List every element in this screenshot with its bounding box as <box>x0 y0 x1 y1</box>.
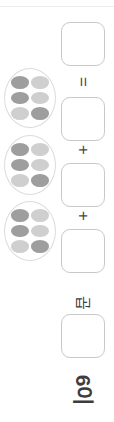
egg-icon <box>11 240 29 253</box>
answer-box-product[interactable] <box>61 314 105 358</box>
egg-icon <box>31 92 49 105</box>
egg-icon <box>31 76 49 89</box>
egg-icon <box>11 92 29 105</box>
top-divider-rule <box>0 6 114 7</box>
egg-icon <box>31 174 49 187</box>
answer-box-3[interactable] <box>61 229 105 273</box>
egg-icon <box>31 143 49 156</box>
egg-icon <box>11 107 29 120</box>
egg-cluster-3 <box>4 201 56 261</box>
egg-icon <box>31 107 49 120</box>
egg-icon <box>11 159 29 172</box>
egg-grid <box>11 76 49 120</box>
multiplicand-label: 6이 <box>71 368 95 412</box>
egg-icon <box>11 209 29 222</box>
egg-icon <box>31 240 49 253</box>
egg-icon <box>31 159 49 172</box>
egg-grid <box>11 143 49 187</box>
egg-cluster-2 <box>4 135 56 195</box>
egg-cluster-1 <box>4 68 56 128</box>
egg-icon <box>11 174 29 187</box>
egg-icon <box>31 209 49 222</box>
egg-icon <box>11 225 29 238</box>
egg-icon <box>31 225 49 238</box>
egg-icon <box>11 143 29 156</box>
egg-grid <box>11 209 49 253</box>
egg-icon <box>11 76 29 89</box>
